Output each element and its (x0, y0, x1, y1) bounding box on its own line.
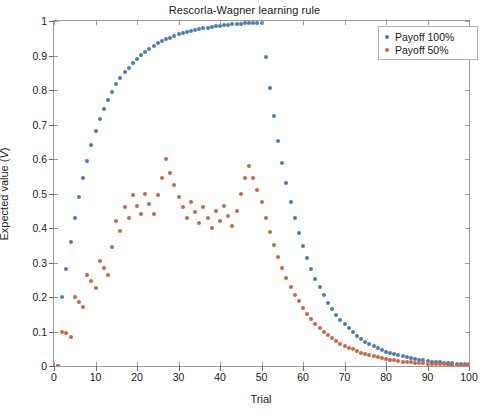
data-point-series-1 (201, 26, 205, 30)
data-point-series-2 (284, 276, 288, 280)
data-point-series-2 (197, 221, 201, 225)
y-axis-tick-label: 0.1 (32, 326, 47, 338)
data-point-series-1 (77, 195, 81, 199)
y-axis-tick-right (465, 297, 469, 298)
x-axis-tick-label: 90 (422, 371, 434, 383)
data-point-series-1 (301, 244, 305, 248)
legend-item: Payoff 100% (383, 30, 472, 43)
data-point-series-1 (280, 161, 284, 165)
data-point-series-2 (318, 326, 322, 330)
data-point-series-1 (230, 22, 234, 26)
data-point-series-2 (297, 299, 301, 303)
y-axis-tick-label: 0.6 (32, 153, 47, 165)
data-point-series-2 (230, 224, 234, 228)
x-axis-tick-label: 10 (90, 371, 102, 383)
data-point-series-2 (455, 363, 459, 366)
data-point-series-2 (177, 195, 181, 199)
data-point-series-1 (94, 129, 98, 133)
data-point-series-2 (309, 317, 313, 321)
data-point-series-2 (322, 330, 326, 334)
data-point-series-1 (147, 47, 151, 51)
data-point-series-2 (69, 335, 73, 339)
y-axis-tick-label: 1 (41, 15, 47, 27)
data-point-series-1 (293, 216, 297, 220)
data-point-series-1 (114, 82, 118, 86)
data-point-series-1 (276, 139, 280, 143)
data-point-series-2 (343, 344, 347, 348)
data-point-series-2 (276, 255, 280, 259)
data-point-series-1 (60, 295, 64, 299)
y-axis-tick-inner (54, 228, 58, 229)
data-point-series-1 (156, 41, 160, 45)
data-point-series-1 (318, 285, 322, 289)
y-axis-tick-right (465, 125, 469, 126)
x-axis-tick-label: 40 (214, 371, 226, 383)
x-axis-tick-top (54, 21, 55, 25)
y-axis-tick-label: 0.2 (32, 291, 47, 303)
data-point-series-1 (372, 344, 376, 348)
data-point-series-2 (147, 202, 151, 206)
data-point-series-1 (255, 21, 259, 25)
data-point-series-1 (309, 267, 313, 271)
y-axis-label: Expected value (V) (0, 148, 10, 241)
data-point-series-2 (156, 193, 160, 197)
y-axis-tick-inner (54, 332, 58, 333)
data-point-series-2 (118, 229, 122, 233)
data-point-series-2 (143, 192, 147, 196)
y-axis-tick-label: 0.9 (32, 50, 47, 62)
data-point-series-1 (131, 61, 135, 65)
data-point-series-2 (372, 354, 376, 358)
x-axis-tick-inner (345, 362, 346, 366)
y-axis-tick-right (465, 263, 469, 264)
data-point-series-2 (255, 188, 259, 192)
data-point-series-1 (152, 44, 156, 48)
x-axis-tick-top (220, 21, 221, 25)
data-point-series-2 (450, 363, 454, 366)
data-point-series-1 (235, 22, 239, 26)
data-point-series-1 (334, 313, 338, 317)
data-point-series-1 (102, 107, 106, 111)
y-axis-tick-right (465, 159, 469, 160)
data-point-series-1 (313, 277, 317, 281)
data-point-series-2 (264, 216, 268, 220)
x-axis-tick-top (262, 21, 263, 25)
y-axis-tick-label: 0.5 (32, 188, 47, 200)
plot-axes: 00.10.20.30.40.50.60.70.80.9101020304050… (53, 20, 470, 367)
x-axis-tick-label: 80 (380, 371, 392, 383)
legend-marker-payoff-100-icon (385, 35, 389, 39)
data-point-series-1 (289, 200, 293, 204)
x-axis-tick-label: 30 (173, 371, 185, 383)
y-axis-tick-right (465, 332, 469, 333)
data-point-series-1 (135, 57, 139, 61)
data-point-series-2 (114, 219, 118, 223)
data-point-series-2 (260, 200, 264, 204)
legend-label: Payoff 50% (395, 44, 449, 56)
data-point-series-2 (73, 295, 77, 299)
data-point-series-2 (401, 360, 405, 364)
data-point-series-2 (77, 300, 81, 304)
data-point-series-2 (367, 353, 371, 357)
data-point-series-1 (305, 256, 309, 260)
data-point-series-2 (226, 214, 230, 218)
x-axis-tick-label: 70 (339, 371, 351, 383)
data-point-series-2 (272, 243, 276, 247)
data-point-series-2 (396, 359, 400, 363)
y-axis-tick-inner (54, 194, 58, 195)
x-axis-tick-label: 20 (131, 371, 143, 383)
chart-legend: Payoff 100% Payoff 50% (378, 26, 478, 60)
x-axis-tick-inner (220, 362, 221, 366)
data-point-series-2 (280, 266, 284, 270)
data-point-series-2 (123, 205, 127, 209)
x-axis-tick-top (137, 21, 138, 25)
data-point-series-2 (164, 157, 168, 161)
data-point-series-2 (185, 216, 189, 220)
data-point-series-1 (343, 322, 347, 326)
y-axis-tick-inner (54, 90, 58, 91)
x-axis-tick-top (386, 21, 387, 25)
data-point-series-1 (89, 143, 93, 147)
data-point-series-1 (85, 159, 89, 163)
data-point-series-2 (102, 266, 106, 270)
data-point-series-1 (73, 216, 77, 220)
data-point-series-1 (351, 330, 355, 334)
data-point-series-1 (64, 267, 68, 271)
